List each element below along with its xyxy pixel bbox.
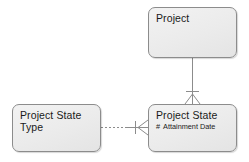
entity-project-state-type-title: Project State Type [20, 109, 94, 133]
crowsfoot-icon-bottom-prong [138, 128, 148, 136]
entity-project[interactable]: Project [148, 7, 237, 58]
crowsfoot-icon-left-prong [185, 94, 193, 104]
entity-project-state-title: Project State [156, 109, 230, 121]
er-diagram-canvas: Project Project State Type Project State… [0, 0, 249, 162]
crowsfoot-icon-right-prong [193, 94, 201, 104]
entity-project-title: Project [156, 12, 230, 24]
entity-project-state[interactable]: Project State # Attainment Date [148, 104, 237, 152]
relationship-project-state-type-to-project-state[interactable] [101, 120, 148, 135]
crowsfoot-icon-top-prong [138, 120, 148, 128]
attribute-row: # Attainment Date [156, 122, 230, 131]
attribute-label: Attainment Date [163, 122, 215, 131]
unique-identifier-marker-icon: # [156, 122, 160, 131]
entity-project-state-type[interactable]: Project State Type [12, 104, 101, 152]
relationship-project-to-project-state[interactable] [185, 58, 200, 104]
entity-project-state-attribute-list: # Attainment Date [156, 122, 230, 131]
